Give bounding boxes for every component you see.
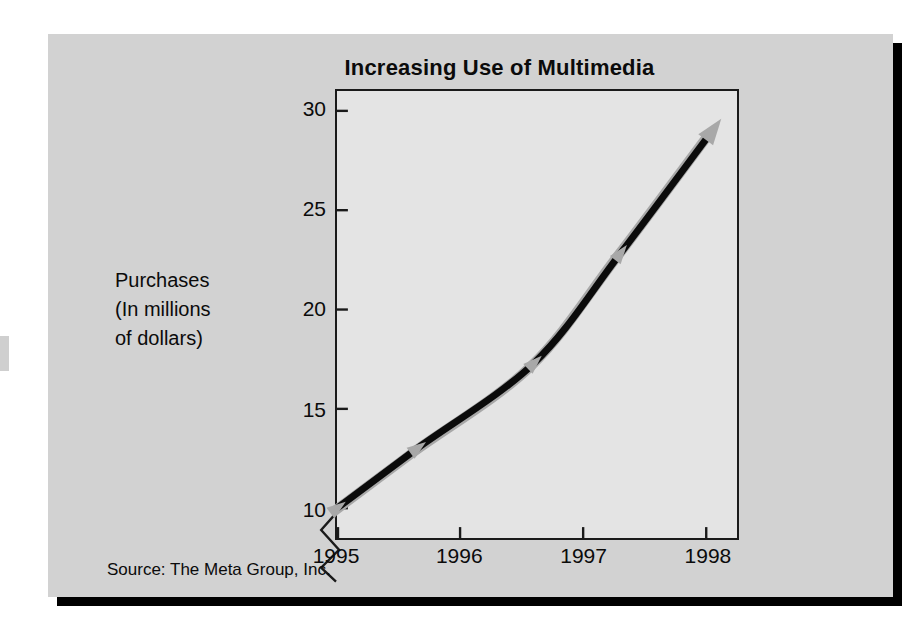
y-axis-caption-line-1: Purchases <box>115 266 300 295</box>
x-axis-tick-label: 1996 <box>414 545 504 566</box>
data-line-purchases <box>337 131 712 508</box>
y-axis-caption-line-2: (In millions <box>115 295 300 324</box>
x-axis-tick-labels: 1995199619971998 <box>335 545 739 575</box>
y-axis-tick-label: 10 <box>284 499 326 520</box>
y-axis-caption: Purchases (In millions of dollars) <box>115 266 300 353</box>
y-axis-tick-label: 20 <box>284 298 326 319</box>
figure-panel: Increasing Use of Multimedia Purchases (… <box>48 34 893 597</box>
data-point-markers <box>326 113 728 518</box>
y-axis-tick-label: 25 <box>284 198 326 219</box>
data-line-shadow <box>334 134 709 511</box>
source-note: Source: The Meta Group, Inc. <box>107 560 331 580</box>
y-axis-tick-marks <box>337 111 348 508</box>
x-axis-tick-label: 1998 <box>663 545 753 566</box>
plot-svg <box>337 91 737 538</box>
y-axis-tick-label: 30 <box>284 98 326 119</box>
x-axis-tick-marks <box>338 527 706 538</box>
plot-area <box>335 89 739 540</box>
y-axis-tick-labels: 1015202530 <box>276 89 326 540</box>
y-axis-caption-line-3: of dollars) <box>115 324 300 353</box>
chart-title: Increasing Use of Multimedia <box>48 55 893 81</box>
scan-edge-artifact <box>0 336 9 371</box>
x-axis-tick-label: 1997 <box>539 545 629 566</box>
y-axis-tick-label: 15 <box>284 399 326 420</box>
